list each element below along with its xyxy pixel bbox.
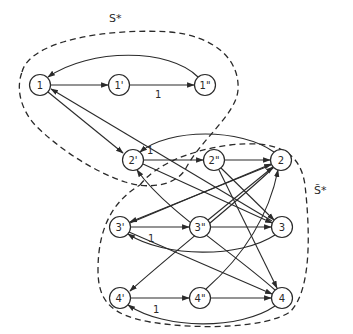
node-4-prime: 4' <box>110 288 131 309</box>
svg-text:3: 3 <box>279 222 285 233</box>
svg-text:2: 2 <box>278 155 284 166</box>
region-s-tilde-star-label: S̃* <box>314 184 327 197</box>
node-4: 4 <box>272 288 293 309</box>
edge-3pp-to-2 <box>208 167 273 220</box>
node-4-double-prime: 4" <box>190 288 211 309</box>
svg-text:4": 4" <box>195 293 206 304</box>
edge-2-to-2p <box>140 134 274 152</box>
node-1-prime: 1' <box>109 75 130 96</box>
edge-3p-to-2 <box>130 164 271 223</box>
node-1-double-prime: 1" <box>195 75 216 96</box>
node-3-double-prime: 3" <box>190 217 211 238</box>
weight-label-1p-1pp: 1 <box>155 89 161 100</box>
svg-text:1: 1 <box>37 80 43 91</box>
edge-3-to-1 <box>51 89 272 221</box>
edge-1pp-to-1 <box>48 55 198 77</box>
svg-text:1": 1" <box>200 80 211 91</box>
node-2: 2 <box>271 150 292 171</box>
edge-3p-to-4 <box>129 232 272 294</box>
graph-diagram: S* S̃* 1 1 1 1 1 1' 1" 2' 2" 2 3' 3" 3 4… <box>0 0 353 334</box>
region-s-star-label: S* <box>109 12 122 25</box>
svg-text:2': 2' <box>128 155 137 166</box>
svg-text:4': 4' <box>115 293 124 304</box>
svg-text:3': 3' <box>115 222 124 233</box>
edge-1-to-2p <box>48 92 123 153</box>
node-1: 1 <box>30 75 51 96</box>
node-2-prime: 2' <box>123 150 144 171</box>
node-3: 3 <box>272 217 293 238</box>
svg-text:1': 1' <box>114 80 123 91</box>
svg-text:2": 2" <box>209 155 220 166</box>
svg-text:4: 4 <box>279 293 285 304</box>
node-2-double-prime: 2" <box>204 150 225 171</box>
svg-text:3": 3" <box>195 222 206 233</box>
node-3-prime: 3' <box>110 217 131 238</box>
weight-label-4p-4pp: 1 <box>153 304 159 315</box>
